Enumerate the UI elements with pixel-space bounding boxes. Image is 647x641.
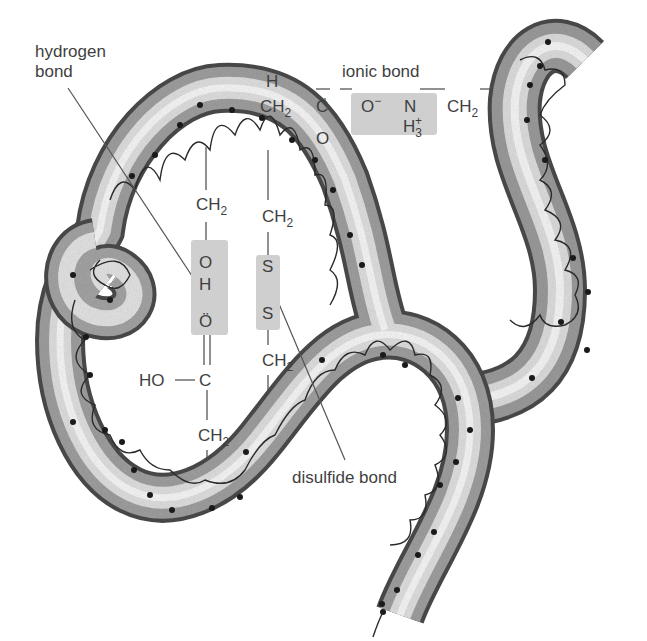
ionic-bond-label: ionic bond	[342, 62, 420, 81]
atom-s-top: S	[262, 258, 273, 276]
atom-h-hydroxyl: H	[199, 276, 211, 294]
atom-o-minus: O−	[361, 98, 381, 117]
disulfide-bond-label: disulfide bond	[292, 468, 397, 487]
atom-ch2-hbond-top: CH2	[196, 196, 227, 215]
atom-ch2-hbond-bottom: CH2	[198, 427, 229, 446]
atom-ch2-disulfide-top: CH2	[262, 208, 293, 227]
atom-o-lone-pair: Ö	[199, 313, 212, 331]
atom-ho: HO	[139, 372, 165, 390]
atom-ch2-ionic-right: CH2	[447, 98, 478, 117]
atom-h3-plus: H3+	[403, 118, 422, 137]
hydrogen-bond-label-line1: hydrogen	[35, 42, 106, 61]
hydrogen-bond-label-line2: bond	[35, 62, 73, 81]
atom-c-carbonyl: C	[316, 98, 328, 116]
chain-tail	[373, 612, 383, 637]
atom-s-bottom: S	[262, 305, 273, 323]
protein-structure-diagram: hydrogen bond ionic bond disulfide bond …	[0, 0, 647, 641]
atom-o-hydroxyl: O	[199, 254, 212, 272]
atom-ch2-disulfide-bottom: CH2	[262, 352, 293, 371]
atom-ch2-ionic-left: CH2	[260, 98, 291, 117]
atom-h-top: H	[266, 73, 278, 91]
atom-c-carboxyl: C	[199, 372, 211, 390]
atom-o-carbonyl: O	[316, 130, 329, 148]
